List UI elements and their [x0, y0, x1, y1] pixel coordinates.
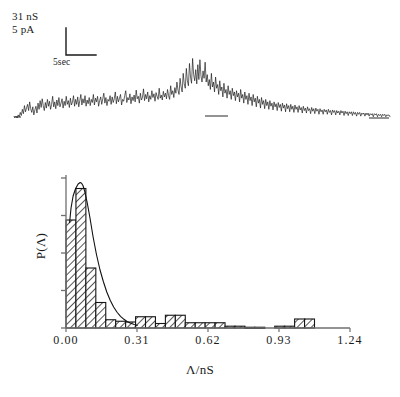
x-axis-tick-label: 0.62 — [195, 333, 220, 348]
x-axis-tick-label: 0.31 — [124, 333, 149, 348]
histogram-plot — [0, 150, 400, 397]
histogram-bar — [185, 323, 195, 328]
current-trace-panel: 31 nS 5 pA 5sec — [0, 0, 400, 150]
histogram-panel: P(Λ) 0.000.310.620.931.24 Λ/nS — [0, 150, 400, 397]
histogram-bar — [136, 317, 146, 328]
current-trace-plot — [0, 0, 400, 150]
histogram-bar — [76, 189, 86, 329]
x-axis-label: Λ/nS — [0, 362, 400, 378]
histogram-bar — [86, 268, 96, 328]
histogram-bar — [205, 323, 215, 328]
histogram-bar — [305, 319, 315, 328]
trace-waveform — [14, 58, 390, 118]
histogram-bar — [175, 315, 185, 328]
histogram-bar — [106, 320, 116, 328]
histogram-bar — [195, 323, 205, 328]
histogram-bar — [295, 319, 305, 328]
histogram-bar — [116, 321, 126, 328]
histogram-bar — [215, 323, 225, 328]
y-axis-ticks — [61, 178, 66, 328]
x-axis-tick-label: 0.93 — [266, 333, 291, 348]
x-axis-tick-label: 1.24 — [337, 333, 362, 348]
x-axis-tick-label: 0.00 — [53, 333, 78, 348]
histogram-bar — [66, 220, 76, 328]
histogram-bar — [146, 317, 156, 328]
histogram-bar — [155, 324, 165, 329]
histogram-bar — [96, 303, 106, 329]
histogram-bars — [66, 189, 315, 329]
histogram-bar — [165, 315, 175, 328]
